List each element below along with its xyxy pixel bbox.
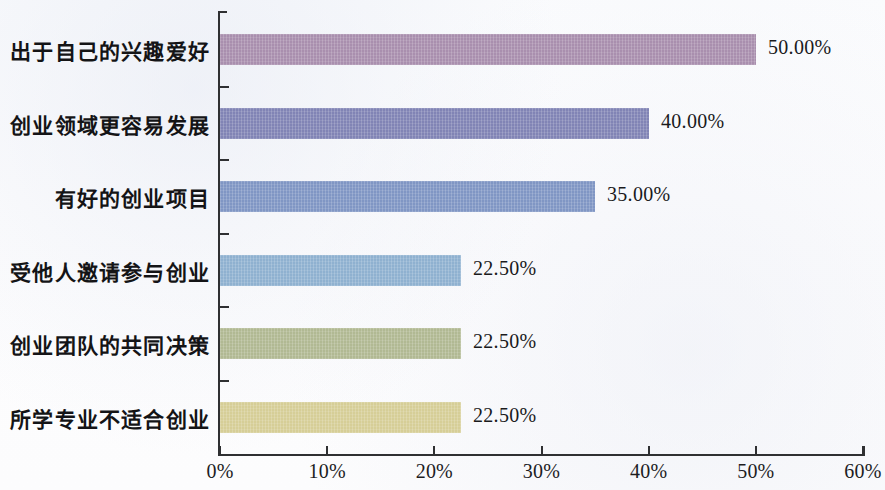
x-axis-tick: [755, 446, 757, 455]
y-axis-category-tick: [220, 86, 229, 88]
x-axis-tick-label: 20%: [416, 460, 453, 483]
x-axis-tick: [219, 446, 221, 455]
category-axis-label: 所学专业不适合创业: [0, 403, 210, 433]
bar: [220, 402, 461, 433]
bar-value-label: 22.50%: [473, 330, 536, 353]
bar: [220, 34, 756, 65]
category-axis-label: 创业领域更容易发展: [0, 109, 210, 139]
x-axis-tick: [648, 446, 650, 455]
bar-value-label: 22.50%: [473, 257, 536, 280]
category-axis-label: 创业团队的共同决策: [0, 329, 210, 359]
x-axis-tick-label: 40%: [630, 460, 667, 483]
y-axis-category-tick: [220, 380, 229, 382]
bar-value-label: 35.00%: [607, 183, 670, 206]
x-axis-tick-label: 30%: [523, 460, 560, 483]
y-axis-category-tick: [220, 159, 229, 161]
x-axis-tick: [326, 446, 328, 455]
horizontal-bar-chart: 0%10%20%30%40%50%60% 出于自己的兴趣爱好创业领域更容易发展有…: [0, 0, 885, 490]
bar: [220, 328, 461, 359]
x-axis-tick-label: 50%: [737, 460, 774, 483]
bar-value-label: 50.00%: [768, 36, 831, 59]
y-axis-category-tick: [220, 306, 229, 308]
x-axis-tick: [862, 446, 864, 455]
category-axis-label: 有好的创业项目: [0, 182, 210, 212]
bar-value-label: 40.00%: [661, 110, 724, 133]
category-axis-label: 出于自己的兴趣爱好: [0, 35, 210, 65]
category-axis-label: 受他人邀请参与创业: [0, 256, 210, 286]
y-axis-top-cap: [218, 11, 227, 13]
bar: [220, 181, 595, 212]
x-axis-tick-label: 10%: [309, 460, 346, 483]
bar: [220, 255, 461, 286]
x-axis-tick-label: 0%: [206, 460, 233, 483]
x-axis-tick-label: 60%: [844, 460, 881, 483]
x-axis-tick: [433, 446, 435, 455]
x-axis-tick: [541, 446, 543, 455]
bar-value-label: 22.50%: [473, 404, 536, 427]
y-axis-category-tick: [220, 233, 229, 235]
bar: [220, 108, 649, 139]
